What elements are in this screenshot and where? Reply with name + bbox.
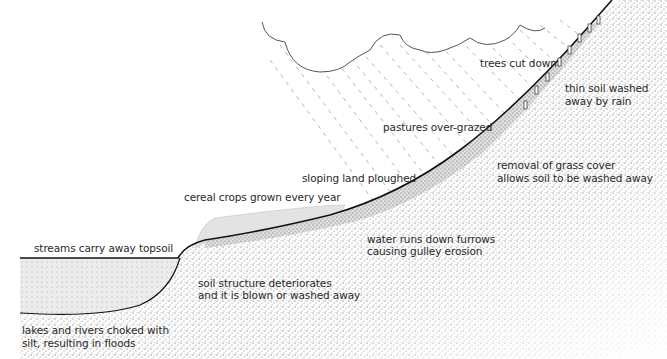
label-grass-2: allows soil to be washed away [497, 172, 653, 185]
label-structure-2: and it is blown or washed away [198, 289, 360, 302]
label-pastures: pastures over-grazed [383, 121, 492, 134]
label-lakes-2: silt, resulting in floods [22, 337, 135, 350]
label-grass-1: removal of grass cover [497, 159, 615, 172]
label-lakes-1: lakes and rivers choked with [22, 324, 169, 337]
label-streams: streams carry away topsoil [34, 242, 173, 255]
label-furrows-2: causing gulley erosion [367, 245, 482, 258]
label-cereal-crops: cereal crops grown every year [184, 191, 341, 204]
label-thin-soil-1: thin soil washed [565, 82, 648, 95]
label-trees-cut-down: trees cut down [480, 57, 557, 70]
label-thin-soil-2: away by rain [565, 95, 631, 108]
label-sloping-land: sloping land ploughed [302, 172, 416, 185]
